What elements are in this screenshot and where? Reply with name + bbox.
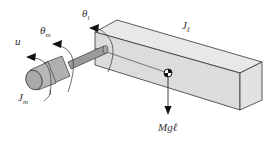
label-j-l: Jℓ [182,19,190,34]
label-j-m: Jm [18,91,28,106]
motor-cylinder [23,56,70,92]
label-mgl: Mgℓ [157,121,178,133]
motor-inertia-arc [44,90,50,101]
center-of-mass-icon [164,69,172,77]
arrowhead-theta-l [89,24,99,32]
link-box [95,20,262,110]
label-theta-m: θm [40,24,50,39]
label-u: u [15,35,21,47]
flexible-joint-diagram: u θm θl Jm Jℓ Mgℓ [0,0,277,141]
arrowhead-theta-m [52,40,62,48]
arrowhead-u [26,53,36,61]
label-theta-l: θl [82,7,89,22]
